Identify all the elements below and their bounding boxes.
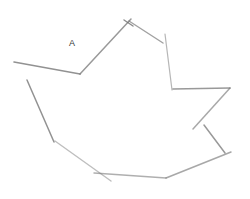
pencil-stroke-1 <box>14 62 80 74</box>
pencil-stroke-9 <box>166 152 231 178</box>
pencil-stroke-8 <box>204 125 225 153</box>
polygon-outline <box>14 19 231 181</box>
sketch-canvas <box>0 0 250 199</box>
vertex-label-a: A <box>69 38 75 48</box>
pencil-stroke-7 <box>193 88 230 129</box>
pencil-stroke-4 <box>129 21 163 43</box>
pencil-stroke-6 <box>173 88 230 89</box>
pencil-stroke-2 <box>80 19 131 74</box>
pencil-stroke-5 <box>165 34 172 90</box>
pencil-stroke-12 <box>55 141 111 181</box>
pencil-stroke-11 <box>27 80 54 142</box>
